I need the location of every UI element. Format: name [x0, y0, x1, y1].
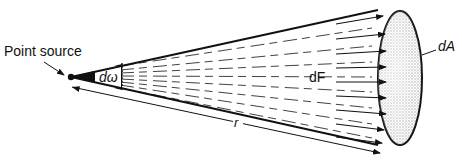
point-source-leader [44, 62, 64, 75]
point-source-dot [68, 74, 74, 80]
solid-angle-label: dω [99, 69, 118, 85]
cone-top-edge [71, 10, 378, 77]
flux-cone-diagram: Point source dω dF dA r [0, 0, 462, 165]
distance-arrow-start-head [72, 86, 80, 92]
area-label: dA [438, 38, 455, 54]
area-leader [422, 50, 436, 55]
flux-label: dF [309, 69, 325, 85]
point-source-label: Point source [4, 43, 82, 59]
cone-bottom-edge [71, 77, 378, 145]
flux-lines [120, 28, 372, 138]
area-shading [378, 11, 422, 145]
distance-label: r [234, 115, 239, 130]
distance-arrow [72, 87, 380, 153]
